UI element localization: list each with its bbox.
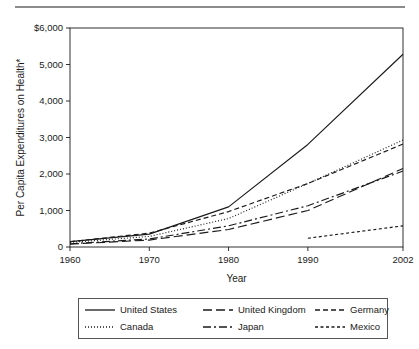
y-tick-label: 2,000 <box>39 168 63 179</box>
legend-line-swatch <box>315 323 345 331</box>
legend-label: United States <box>120 305 177 316</box>
y-tick-label: 1,000 <box>39 205 63 216</box>
x-tick-label: 1990 <box>297 254 318 265</box>
x-tick-label: 1970 <box>139 254 160 265</box>
figure: $6,0005,0004,0003,0002,0001,0000 1960197… <box>0 0 419 349</box>
legend-item-mexico: Mexico <box>315 322 395 333</box>
x-tick-label: 1960 <box>59 254 80 265</box>
y-axis-title: Per Capita Expenditures on Health* <box>15 58 26 216</box>
y-axis: $6,0005,0004,0003,0002,0001,0000 <box>34 22 70 252</box>
legend-item-united-kingdom: United Kingdom <box>203 305 315 316</box>
legend-item-germany: Germany <box>315 305 395 316</box>
x-tick-label: 1980 <box>218 254 239 265</box>
series-line-united-states <box>70 54 403 241</box>
series-line-canada <box>70 140 403 242</box>
series-line-mexico <box>308 226 403 238</box>
series-line-germany <box>70 144 403 242</box>
legend-label: United Kingdom <box>238 305 306 316</box>
legend-line-swatch <box>85 306 115 314</box>
legend-label: Japan <box>238 322 264 333</box>
y-tick-label: 4,000 <box>39 95 63 106</box>
legend-label: Mexico <box>350 322 380 333</box>
y-tick-label: $6,000 <box>34 22 63 33</box>
legend-label: Canada <box>120 322 153 333</box>
x-tick-label: 2002 <box>392 254 413 265</box>
legend-item-japan: Japan <box>203 322 315 333</box>
legend-item-canada: Canada <box>85 322 203 333</box>
legend-grid: United StatesUnited KingdomGermanyCanada… <box>79 299 387 338</box>
legend-line-swatch <box>85 323 115 331</box>
data-series-group <box>70 54 403 244</box>
x-axis-title: Year <box>226 273 247 284</box>
y-tick-label: 5,000 <box>39 59 63 70</box>
legend-line-swatch <box>203 306 233 314</box>
legend-line-swatch <box>315 306 345 314</box>
legend-line-swatch <box>203 323 233 331</box>
chart-legend: United StatesUnited KingdomGermanyCanada… <box>78 298 388 339</box>
chart-plot-area: $6,0005,0004,0003,0002,0001,0000 1960197… <box>0 0 419 290</box>
legend-label: Germany <box>350 305 389 316</box>
y-tick-label: 3,000 <box>39 132 63 143</box>
line-chart: $6,0005,0004,0003,0002,0001,0000 1960197… <box>0 0 419 290</box>
legend-item-united-states: United States <box>85 305 203 316</box>
y-tick-label: 0 <box>58 241 63 252</box>
x-axis: 19601970198019902002 <box>59 247 413 265</box>
plot-frame <box>70 28 403 247</box>
